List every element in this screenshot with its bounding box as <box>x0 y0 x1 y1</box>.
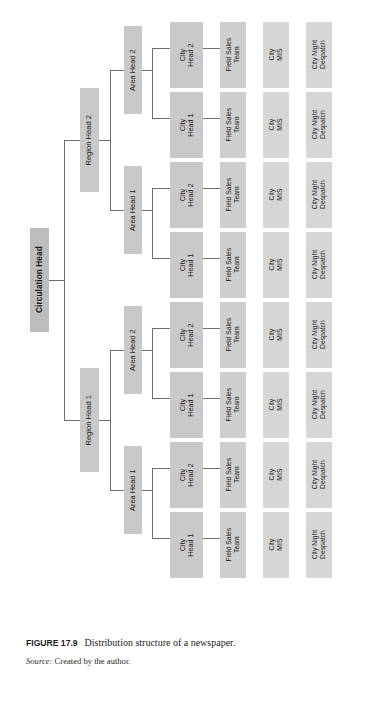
node-label: Region Head 1 <box>85 395 94 446</box>
node-label: Field Sales Team <box>225 318 240 352</box>
node-city-head-2-r1a1[interactable]: City Head 2 <box>170 442 203 508</box>
node-label: City MIS <box>268 329 283 341</box>
node-city-mis-r2a1c1[interactable]: City MIS <box>263 232 289 298</box>
node-city-night-despatch-r2a1c1[interactable]: City Night Despatch <box>306 232 332 298</box>
connector-area-r1a1-to-city-1 <box>152 538 170 539</box>
node-city-mis-r2a2c1[interactable]: City MIS <box>263 92 289 158</box>
node-label: City MIS <box>268 119 283 131</box>
node-city-night-despatch-r2a1c2[interactable]: City Night Despatch <box>306 162 332 228</box>
node-city-mis-r2a1c2[interactable]: City MIS <box>263 162 289 228</box>
figure-title-line: FIGURE 17.9Distribution structure of a n… <box>26 636 387 650</box>
connector-city-r2a1c1-to-unit <box>203 258 220 259</box>
node-label: City Night Despatch <box>311 390 326 419</box>
node-city-head-2-r1a2[interactable]: City Head 2 <box>170 302 203 368</box>
node-circulation-head[interactable]: Circulation Head <box>30 228 49 332</box>
connector-city-r2a2c2-to-unit <box>203 48 220 49</box>
node-city-mis-r1a2c1[interactable]: City MIS <box>263 372 289 438</box>
node-label: City Night Despatch <box>311 180 326 209</box>
node-label: Area Head 1 <box>129 469 137 511</box>
node-field-sales-team-r1a2c1[interactable]: Field Sales Team <box>220 372 246 438</box>
connector-area-r2a1-to-city-1 <box>152 258 170 259</box>
node-label: City Night Despatch <box>311 110 326 139</box>
node-area-head-2-r1[interactable]: Area Head 2 <box>124 306 142 394</box>
source-label: Source: <box>26 656 52 666</box>
node-label: City Night Despatch <box>311 320 326 349</box>
node-label: City Head 1 <box>178 113 194 136</box>
connector-area-r1a2-to-city-2 <box>152 328 170 329</box>
node-label: City MIS <box>268 49 283 61</box>
node-label: Field Sales Team <box>225 178 240 212</box>
node-field-sales-team-r2a1c2[interactable]: Field Sales Team <box>220 162 246 228</box>
node-label: Field Sales Team <box>225 458 240 492</box>
node-label: Field Sales Team <box>225 248 240 282</box>
node-label: City MIS <box>268 539 283 551</box>
connector-region2-stem <box>99 140 110 141</box>
node-city-head-1-r2a1[interactable]: City Head 1 <box>170 232 203 298</box>
connector-area-r1a2-to-city-1 <box>152 398 170 399</box>
node-city-night-despatch-r1a1c2[interactable]: City Night Despatch <box>306 442 332 508</box>
node-city-mis-r1a1c1[interactable]: City MIS <box>263 512 289 578</box>
node-field-sales-team-r2a2c2[interactable]: Field Sales Team <box>220 22 246 88</box>
node-city-mis-r1a1c2[interactable]: City MIS <box>263 442 289 508</box>
connector-root-stem <box>49 280 64 281</box>
node-city-night-despatch-r2a2c2[interactable]: City Night Despatch <box>306 22 332 88</box>
connector-city-r2a1c2-to-unit <box>203 188 220 189</box>
node-field-sales-team-r1a1c1[interactable]: Field Sales Team <box>220 512 246 578</box>
figure-title: Distribution structure of a newspaper. <box>85 637 236 648</box>
connector-city-r1a2c1-to-unit <box>203 398 220 399</box>
node-city-mis-r1a2c2[interactable]: City MIS <box>263 302 289 368</box>
node-label: City Head 2 <box>178 463 194 486</box>
node-city-night-despatch-r1a2c2[interactable]: City Night Despatch <box>306 302 332 368</box>
node-city-night-despatch-r1a1c1[interactable]: City Night Despatch <box>306 512 332 578</box>
connector-root-to-region-1 <box>64 420 80 421</box>
node-area-head-1-r2[interactable]: Area Head 1 <box>124 166 142 254</box>
node-field-sales-team-r2a2c1[interactable]: Field Sales Team <box>220 92 246 158</box>
node-city-mis-r2a2c2[interactable]: City MIS <box>263 22 289 88</box>
node-city-night-despatch-r1a2c1[interactable]: City Night Despatch <box>306 372 332 438</box>
connector-region1-stem <box>99 420 110 421</box>
node-field-sales-team-r1a1c2[interactable]: Field Sales Team <box>220 442 246 508</box>
connector-region1-trunk <box>110 350 111 490</box>
figure-number: FIGURE 17.9 <box>26 638 78 648</box>
node-label: City Night Despatch <box>311 530 326 559</box>
connector-area-r2a1-to-city-2 <box>152 188 170 189</box>
node-city-head-2-r2a1[interactable]: City Head 2 <box>170 162 203 228</box>
connector-region1-to-area-2 <box>110 350 124 351</box>
node-city-head-1-r2a2[interactable]: City Head 1 <box>170 92 203 158</box>
node-region-head-1[interactable]: Region Head 1 <box>80 368 99 472</box>
node-label: Area Head 2 <box>129 329 137 371</box>
node-city-head-2-r2a2[interactable]: City Head 2 <box>170 22 203 88</box>
connector-area-r1a1-to-city-2 <box>152 468 170 469</box>
node-region-head-2[interactable]: Region Head 2 <box>80 88 99 192</box>
figure-caption: FIGURE 17.9Distribution structure of a n… <box>0 636 387 666</box>
connector-area-r1a2-stem <box>142 350 152 351</box>
connector-area-r1a1-stem <box>142 490 152 491</box>
connector-area-r2a2-to-city-1 <box>152 118 170 119</box>
connector-area-r2a2-stem <box>142 70 152 71</box>
connector-city-r1a1c2-to-unit <box>203 468 220 469</box>
node-label: City Head 1 <box>178 253 194 276</box>
node-label: City Head 2 <box>178 43 194 66</box>
connector-region1-to-area-1 <box>110 490 124 491</box>
node-city-night-despatch-r2a2c1[interactable]: City Night Despatch <box>306 92 332 158</box>
connector-city-r1a1c1-to-unit <box>203 538 220 539</box>
node-label: City MIS <box>268 189 283 201</box>
node-field-sales-team-r2a1c1[interactable]: Field Sales Team <box>220 232 246 298</box>
connector-region2-to-area-1 <box>110 210 124 211</box>
connector-city-r1a2c2-to-unit <box>203 328 220 329</box>
connector-area-r2a2-trunk <box>152 48 153 118</box>
connector-area-r1a1-trunk <box>152 468 153 538</box>
node-label: City MIS <box>268 469 283 481</box>
source-text: Created by the author. <box>55 656 131 666</box>
node-field-sales-team-r1a2c2[interactable]: Field Sales Team <box>220 302 246 368</box>
node-label: City MIS <box>268 399 283 411</box>
connector-region2-to-area-2 <box>110 70 124 71</box>
node-city-head-1-r1a2[interactable]: City Head 1 <box>170 372 203 438</box>
node-area-head-1-r1[interactable]: Area Head 1 <box>124 446 142 534</box>
node-label: City Head 2 <box>178 323 194 346</box>
node-label: Field Sales Team <box>225 528 240 562</box>
figure-source-line: Source: Created by the author. <box>26 656 387 666</box>
node-area-head-2-r2[interactable]: Area Head 2 <box>124 26 142 114</box>
node-label: City MIS <box>268 259 283 271</box>
node-city-head-1-r1a1[interactable]: City Head 1 <box>170 512 203 578</box>
